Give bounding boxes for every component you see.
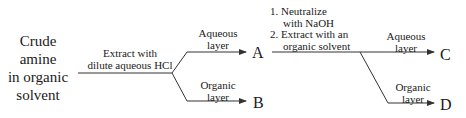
start-material-label: Crude amine in organic solvent — [2, 32, 74, 104]
product-c: C — [440, 47, 451, 63]
step1-label: Extract with dilute aqueous HCl — [82, 47, 178, 71]
branch2-lower-label: Organic layer — [391, 81, 435, 105]
step2-line-3: 2. Extract with an — [270, 29, 350, 41]
product-b: B — [253, 95, 264, 111]
branch2-upper-line-2: layer — [384, 42, 428, 54]
product-d: D — [440, 97, 452, 113]
start-line-1: Crude — [2, 32, 74, 50]
start-line-3: in organic — [2, 68, 74, 86]
branch2-upper-label: Aqueous layer — [384, 30, 428, 54]
start-line-4: solvent — [2, 86, 74, 104]
branch2-lower-line-2: layer — [391, 93, 435, 105]
branch1-upper-label: Aqueous layer — [196, 27, 240, 51]
branch2-upper-line-1: Aqueous — [384, 30, 428, 42]
branch1-lower-line-2: layer — [196, 91, 240, 103]
step2-line-1: 1. Neutralize — [270, 6, 350, 18]
product-a: A — [252, 45, 264, 61]
step2-line-4: organic solvent — [270, 41, 350, 53]
step1-line-1: Extract with — [82, 47, 178, 59]
branch1-upper-line-2: layer — [196, 39, 240, 51]
step2-label: 1. Neutralize with NaOH 2. Extract with … — [270, 6, 350, 52]
branch2-lower-line-1: Organic — [391, 81, 435, 93]
branch1-lower-line-1: Organic — [196, 79, 240, 91]
step1-line-2: dilute aqueous HCl — [82, 59, 178, 71]
branch1-upper-line-1: Aqueous — [196, 27, 240, 39]
branch1-lower-label: Organic layer — [196, 79, 240, 103]
start-line-2: amine — [2, 50, 74, 68]
